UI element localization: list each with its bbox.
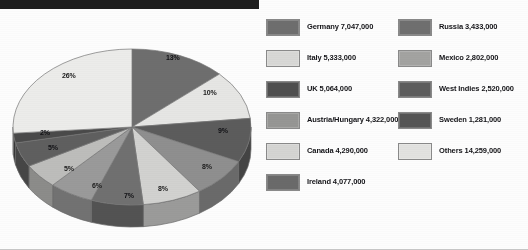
legend-item[interactable]: Others 14,259,000	[398, 142, 501, 160]
legend-swatch	[398, 19, 432, 36]
legend-label: Canada 4,290,000	[307, 147, 368, 155]
pie-percent-label: 26%	[62, 72, 75, 79]
legend-label: Sweden 1,281,000	[439, 116, 501, 124]
legend-item[interactable]: Russia 3,433,000	[398, 18, 497, 36]
legend-item[interactable]: Sweden 1,281,000	[398, 111, 501, 129]
pie-percent-label: 8%	[158, 185, 168, 192]
legend-item[interactable]: Mexico 2,802,000	[398, 49, 498, 67]
legend-swatch	[266, 174, 300, 191]
legend-swatch	[266, 50, 300, 67]
legend-label: Russia 3,433,000	[439, 23, 497, 31]
pie-percent-label: 7%	[124, 192, 134, 199]
legend-swatch	[266, 112, 300, 129]
legend-label: Others 14,259,000	[439, 147, 501, 155]
legend-swatch	[266, 81, 300, 98]
pie-percent-label: 2%	[40, 129, 50, 136]
legend-item[interactable]: West Indies 2,520,000	[398, 80, 514, 98]
legend: Germany 7,047,000Italy 5,333,000UK 5,064…	[266, 18, 528, 218]
legend-label: Germany 7,047,000	[307, 23, 373, 31]
chart-figure: 13%10%9%8%8%7%6%5%5%2%26% Germany 7,047,…	[0, 0, 528, 250]
pie-stage: 13%10%9%8%8%7%6%5%5%2%26%	[6, 22, 258, 237]
legend-label: Ireland 4,077,000	[307, 178, 365, 186]
legend-item[interactable]: Canada 4,290,000	[266, 142, 368, 160]
pie-percent-label: 5%	[64, 165, 74, 172]
legend-swatch	[398, 112, 432, 129]
legend-swatch	[398, 81, 432, 98]
legend-label: Austria/Hungary 4,322,000	[307, 116, 398, 124]
pie-slice	[13, 49, 132, 133]
pie-percent-label: 10%	[203, 89, 216, 96]
legend-swatch	[398, 50, 432, 67]
legend-item[interactable]: Germany 7,047,000	[266, 18, 373, 36]
pie-chart: 13%10%9%8%8%7%6%5%5%2%26%	[6, 22, 258, 237]
legend-label: West Indies 2,520,000	[439, 85, 514, 93]
legend-item[interactable]: UK 5,064,000	[266, 80, 352, 98]
legend-swatch	[266, 143, 300, 160]
legend-swatch	[266, 19, 300, 36]
pie-percent-label: 5%	[48, 144, 58, 151]
pie-percent-label: 9%	[218, 127, 228, 134]
legend-label: UK 5,064,000	[307, 85, 352, 93]
pie-percent-label: 8%	[202, 163, 212, 170]
legend-label: Italy 5,333,000	[307, 54, 356, 62]
header-black-bar	[0, 0, 259, 9]
legend-item[interactable]: Italy 5,333,000	[266, 49, 356, 67]
legend-item[interactable]: Ireland 4,077,000	[266, 173, 365, 191]
legend-swatch	[398, 143, 432, 160]
pie-percent-label: 13%	[166, 54, 179, 61]
legend-label: Mexico 2,802,000	[439, 54, 498, 62]
legend-item[interactable]: Austria/Hungary 4,322,000	[266, 111, 398, 129]
pie-percent-label: 6%	[92, 182, 102, 189]
